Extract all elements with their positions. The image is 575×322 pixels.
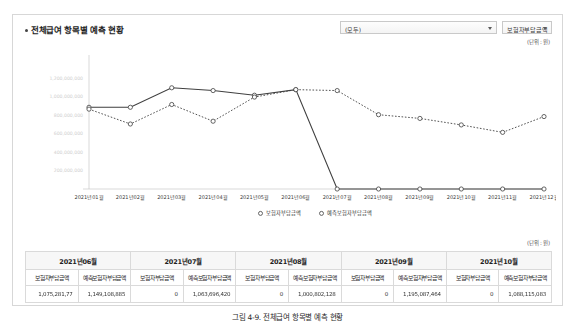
chart-axes (83, 55, 544, 189)
table-month-header: 2021년07월 (131, 252, 236, 270)
series-marker[interactable] (501, 130, 505, 134)
table-metric-header: 보험자부담금액 (446, 270, 499, 286)
x-axis-tick-label: 2021년05월 (240, 194, 269, 201)
table-cell-actual: 0 (236, 286, 289, 303)
legend-label: 예측보험자부담금액 (327, 209, 372, 217)
table-month-header: 2021년08월 (236, 252, 341, 270)
series-marker[interactable] (459, 123, 463, 127)
table-metric-header: 보험자부담금액 (26, 270, 79, 286)
series-line-2 (89, 90, 544, 133)
table-cell-forecast: 1,149,108,885 (78, 286, 131, 303)
table-metric-header: 예측보험자부담금액 (78, 270, 131, 286)
table-cell-actual: 0 (446, 286, 499, 303)
y-axis-tick-label: 400,000,000 (54, 150, 83, 155)
chevron-down-icon (488, 27, 492, 30)
legend-marker (259, 211, 263, 215)
table-unit-label: (단위 : 원) (527, 239, 550, 247)
series-marker[interactable] (376, 187, 380, 191)
series-marker[interactable] (459, 187, 463, 191)
series-marker[interactable] (335, 187, 339, 191)
chevron-down-icon (543, 27, 547, 30)
table-month-header: 2021년09월 (341, 252, 446, 270)
table-row: 1,075,281,771,149,108,88501,063,696,4200… (26, 286, 552, 303)
y-axis-tick-label: 1,200,000,000 (49, 76, 83, 81)
chart-svg: 200,000,000400,000,000600,000,000800,000… (21, 51, 556, 231)
x-axis-tick-label: 2021년03월 (157, 194, 186, 201)
series-marker[interactable] (501, 187, 505, 191)
series-marker[interactable] (376, 113, 380, 117)
prediction-table: 2021년06월2021년07월2021년08월2021년09월2021년10월… (25, 251, 552, 303)
series-marker[interactable] (128, 105, 132, 109)
series-marker[interactable] (335, 88, 339, 92)
legend-label: 보험자부담금액 (266, 209, 301, 217)
prediction-panel: 전체급여 항목별 예측 현황 (모두) 보험자부담금액 (단위 : 원) 200… (12, 14, 563, 306)
series-marker[interactable] (170, 102, 174, 106)
table-cell-actual: 0 (341, 286, 394, 303)
table-metric-header: 보험자부담금액 (236, 270, 289, 286)
series-marker[interactable] (418, 116, 422, 120)
table-month-header-row: 2021년06월2021년07월2021년08월2021년09월2021년10월 (26, 252, 552, 270)
table-cell-forecast: 1,088,115,083 (499, 286, 552, 303)
chart-unit-label: (단위 : 원) (527, 38, 550, 46)
measure-select-value: 보험자부담금액 (507, 25, 548, 34)
table-cell-forecast: 1,195,087,464 (394, 286, 447, 303)
series-marker[interactable] (128, 122, 132, 126)
x-axis-tick-label: 2021년08월 (364, 194, 393, 201)
table-cell-actual: 1,075,281,77 (26, 286, 79, 303)
series-marker[interactable] (87, 107, 91, 111)
x-axis-tick-label: 2021년07월 (323, 194, 352, 201)
series-marker[interactable] (542, 114, 546, 118)
legend-marker (320, 211, 324, 215)
panel-header: 전체급여 항목별 예측 현황 (모두) 보험자부담금액 (13, 15, 562, 45)
table-metric-header: 예측보험자부담금액 (499, 270, 552, 286)
y-axis-tick-label: 600,000,000 (54, 131, 83, 136)
table-metric-header: 보험자부담금액 (131, 270, 184, 286)
x-axis-tick-label: 2021년01월 (74, 194, 103, 201)
x-axis-tick-label: 2021년12월 (529, 194, 556, 201)
table-metric-header: 예측보험자부담금액 (183, 270, 236, 286)
table-metric-header-row: 보험자부담금액예측보험자부담금액보험자부담금액예측보험자부담금액보험자부담금액예… (26, 270, 552, 286)
prediction-line-chart: 200,000,000400,000,000600,000,000800,000… (21, 51, 556, 231)
series-marker[interactable] (211, 119, 215, 123)
table-metric-header: 예측보험자부담금액 (288, 270, 341, 286)
table-metric-header: 보험자부담금액 (341, 270, 394, 286)
series-marker[interactable] (211, 88, 215, 92)
x-axis-tick-label: 2021년11월 (488, 194, 517, 201)
x-axis-tick-label: 2021년10월 (447, 194, 476, 201)
x-axis-tick-label: 2021년09월 (405, 194, 434, 201)
series-marker[interactable] (170, 86, 174, 90)
category-select[interactable]: (모두) (340, 21, 497, 34)
x-axis-tick-label: 2021년04월 (199, 194, 228, 201)
figure-caption: 그림 4-9. 전체급여 항목별 예측 현황 (0, 311, 575, 322)
series-marker[interactable] (294, 88, 298, 92)
table-metric-header: 예측보험자부담금액 (394, 270, 447, 286)
series-marker[interactable] (542, 187, 546, 191)
table-month-header: 2021년06월 (26, 252, 131, 270)
measure-select[interactable]: 보험자부담금액 (502, 21, 552, 34)
x-axis-tick-labels: 2021년01월2021년02월2021년03월2021년04월2021년05월… (74, 194, 556, 201)
series-marker[interactable] (418, 187, 422, 191)
table-month-header: 2021년10월 (446, 252, 551, 270)
category-select-value: (모두) (345, 25, 361, 34)
chart-legend: 보험자부담금액예측보험자부담금액 (259, 209, 372, 217)
prediction-table-wrap: 2021년06월2021년07월2021년08월2021년09월2021년10월… (25, 251, 552, 303)
series-marker[interactable] (252, 95, 256, 99)
x-axis-tick-label: 2021년06월 (281, 194, 310, 201)
table-cell-actual: 0 (131, 286, 184, 303)
y-axis-tick-label: 1,000,000,000 (49, 94, 83, 99)
page-title: 전체급여 항목별 예측 현황 (25, 23, 124, 35)
table-cell-forecast: 1,063,696,420 (183, 286, 236, 303)
x-axis-tick-label: 2021년02월 (116, 194, 145, 201)
y-axis-tick-label: 800,000,000 (54, 113, 83, 118)
bullet-icon (25, 29, 28, 32)
chart-series-layer (87, 86, 546, 191)
table-cell-forecast: 1,000,802,128 (288, 286, 341, 303)
y-axis-tick-labels: 200,000,000400,000,000600,000,000800,000… (49, 76, 83, 174)
page-title-text: 전체급여 항목별 예측 현황 (31, 25, 124, 35)
series-line-1 (89, 88, 544, 189)
y-axis-tick-label: 200,000,000 (54, 168, 83, 173)
